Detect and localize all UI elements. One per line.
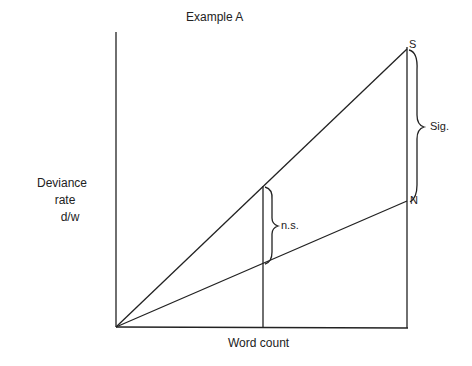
x-axis <box>116 327 408 328</box>
point-label-s: S <box>409 38 416 50</box>
ns-label: n.s. <box>281 219 299 231</box>
sig-label: Sig. <box>430 120 449 132</box>
x-axis-label: Word count <box>228 336 289 350</box>
sig-brace <box>409 50 424 202</box>
ns-brace <box>265 187 278 264</box>
point-label-n: N <box>410 194 418 206</box>
line-n <box>116 201 407 327</box>
line-s <box>116 49 407 327</box>
diagram-canvas <box>0 0 472 366</box>
